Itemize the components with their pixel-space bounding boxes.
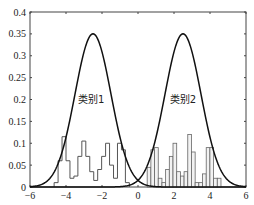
histogram-class2-bar: [169, 156, 173, 187]
histogram-class2-bar: [180, 176, 184, 187]
y-tick-label: 0.25: [9, 72, 27, 83]
x-tick-label: 0: [136, 190, 141, 201]
y-tick-label: 0.35: [9, 28, 27, 39]
histogram-class2-bar: [188, 135, 192, 188]
annotation-class1: 类别1: [78, 93, 104, 105]
annotation-class2: 类别2: [170, 93, 196, 105]
histogram-class2: [147, 135, 221, 188]
histogram-class2-bar: [155, 148, 159, 187]
x-tick-label: 4: [208, 190, 213, 201]
y-tick-label: 0.05: [9, 160, 27, 171]
x-tick-label: 2: [172, 190, 177, 201]
chart: −6−4−20246 00.050.10.150.20.250.30.350.4…: [0, 0, 254, 205]
y-tick-label: 0.1: [14, 138, 27, 149]
histogram-class2-bar: [158, 178, 162, 187]
y-tick-label: 0.15: [9, 116, 27, 127]
histogram-class2-bar: [214, 178, 218, 187]
histogram-class1: [54, 137, 129, 187]
y-tick-label: 0.3: [14, 50, 27, 61]
x-tick-label: −2: [97, 190, 108, 201]
histogram-class2-bar: [166, 170, 170, 188]
y-tick-label: 0.4: [14, 7, 27, 18]
histogram-class2-bar: [177, 172, 181, 187]
histogram-class2-bar: [217, 178, 221, 187]
x-tick-label: −4: [61, 190, 72, 201]
histogram-class2-bar: [147, 167, 151, 187]
histogram-class2-bar: [206, 148, 210, 187]
histogram-class2-bar: [184, 172, 188, 187]
histogram-class2-bar: [191, 152, 195, 187]
y-tick-label: 0: [21, 182, 26, 193]
histogram-class2-bar: [210, 148, 214, 187]
x-tick-label: 6: [244, 190, 249, 201]
y-tick-label: 0.2: [14, 94, 27, 105]
histogram-class1-outline: [54, 137, 129, 187]
x-tick-label: −6: [25, 190, 36, 201]
histogram-class2-bar: [203, 174, 207, 187]
histogram-class2-bar: [173, 143, 177, 187]
